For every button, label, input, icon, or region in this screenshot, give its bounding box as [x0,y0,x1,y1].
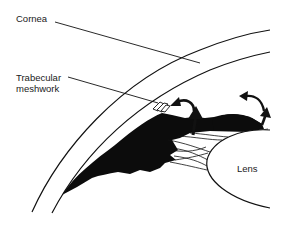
trabecular-leader-line [68,77,158,103]
trabecular-label-line2: meshwork [16,83,59,94]
lens-label: Lens [237,163,258,174]
eye-angle-diagram: Cornea Trabecular meshwork Lens [0,0,290,227]
iris-right-lobe [212,114,262,131]
flow-arrow-curved-left-icon [170,97,194,111]
flow-arrow-up-right-icon [260,107,271,125]
cornea-leader-line [55,22,200,63]
trabecular-label-line1: Trabecular [16,72,61,83]
flow-arrow-curved-right-icon [239,91,264,111]
cornea-label: Cornea [16,13,47,24]
trabecular-meshwork-icon [153,102,170,112]
diagram-drawing [0,0,290,227]
